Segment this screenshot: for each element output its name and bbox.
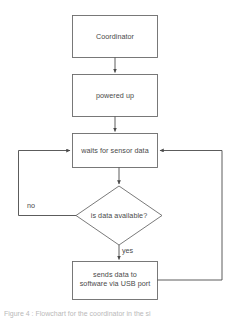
edge-sends-back-to-waits (158, 151, 223, 281)
node-powered-up (73, 75, 158, 117)
node-sends-data (73, 262, 158, 300)
node-waits-for-sensor-data (73, 134, 158, 168)
figure-caption: Figure 4 : Flowchart for the coordinator… (4, 309, 235, 318)
edge-label-no: no (27, 201, 35, 210)
edge-label-yes: yes (122, 246, 133, 255)
node-is-data-available (76, 186, 162, 245)
flowchart-figure: Coordinator powered up waits for sensor … (0, 0, 239, 318)
flowchart-canvas (0, 0, 239, 318)
node-coordinator (73, 16, 158, 58)
